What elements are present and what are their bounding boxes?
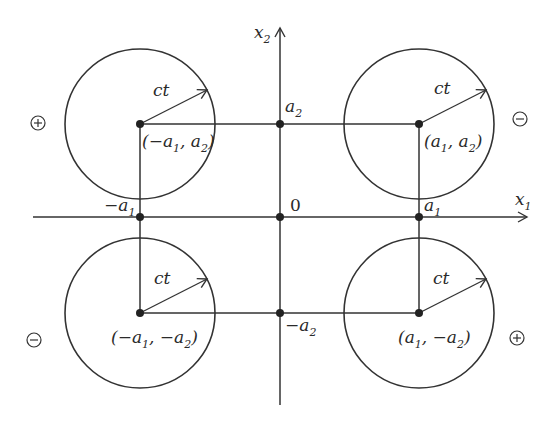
point-center-bottom-right (415, 309, 423, 317)
point-neg-a2 (276, 309, 284, 317)
sign-minus-top-right-icon (513, 112, 527, 126)
point-a2 (276, 120, 284, 128)
radius-label-top-right: ct (434, 78, 451, 98)
radius-arrow-bottom-right (419, 279, 486, 313)
diagram-canvas: x2 x1 0 −a1 a1 a2 −a2 ct ct ct ct (−a1, … (0, 0, 557, 425)
sign-minus-bottom-left-icon (27, 333, 41, 347)
radius-label-bottom-left: ct (154, 268, 171, 288)
radius-arrow-bottom-left (140, 279, 207, 313)
coord-label-bottom-right: (a1, −a2) (398, 327, 471, 351)
point-center-bottom-left (136, 309, 144, 317)
tick-label-a1: a1 (424, 195, 441, 219)
coord-label-top-left: (−a1, a2) (142, 131, 215, 155)
point-origin (276, 213, 284, 221)
point-center-top-right (415, 120, 423, 128)
sign-plus-bottom-right-icon (510, 331, 524, 345)
x2-axis-label: x2 (254, 22, 271, 46)
coord-label-bottom-left: (−a1, −a2) (111, 327, 198, 351)
radius-arrow-top-right (419, 90, 486, 124)
tick-label-neg-a2: −a2 (285, 315, 316, 339)
point-center-top-left (136, 120, 144, 128)
radius-arrow-top-left (140, 90, 207, 124)
tick-label-a2: a2 (285, 96, 302, 120)
origin-label: 0 (290, 195, 301, 215)
coord-label-top-right: (a1, a2) (424, 131, 482, 155)
x1-axis-label: x1 (515, 189, 532, 213)
radius-label-bottom-right: ct (433, 268, 450, 288)
point-neg-a1 (136, 213, 144, 221)
radius-label-top-left: ct (153, 80, 170, 100)
sign-plus-top-left-icon (31, 116, 45, 130)
point-a1 (415, 213, 423, 221)
